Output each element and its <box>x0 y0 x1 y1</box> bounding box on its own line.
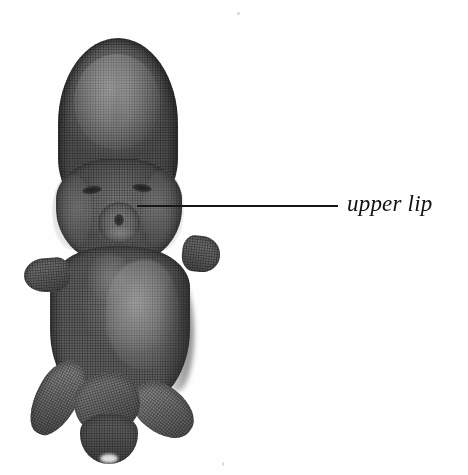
specimen-photograph <box>14 32 224 452</box>
leader-line-upper-lip <box>137 205 338 207</box>
cheek-left <box>52 174 92 250</box>
figure-root: upper lip <box>0 0 468 475</box>
forelimb-right <box>180 234 222 274</box>
forelimb-left <box>23 256 71 293</box>
tail-notch <box>100 454 118 463</box>
cheek-right <box>142 170 184 250</box>
specimen-upper-lip <box>100 228 140 244</box>
trunk-shadow-right <box>160 276 194 392</box>
label-upper-lip: upper lip <box>347 190 433 218</box>
ventral-patch-secondary <box>88 254 132 302</box>
scan-speck <box>222 462 224 466</box>
nostril <box>114 214 124 226</box>
scan-speck <box>237 12 240 15</box>
